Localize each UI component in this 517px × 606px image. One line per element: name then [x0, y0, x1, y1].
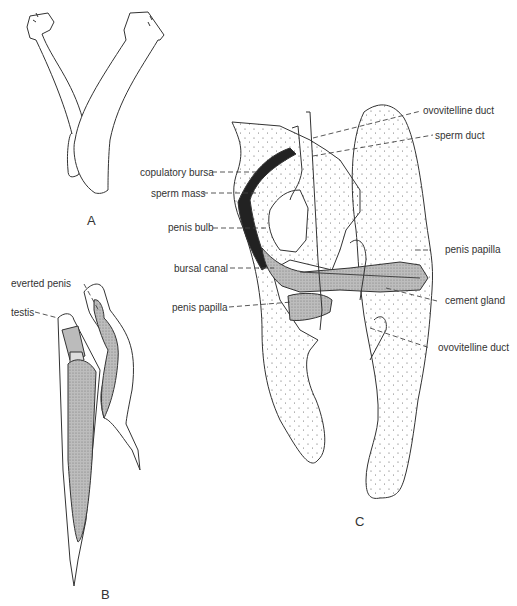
label-copulatory-bursa: copulatory bursa	[140, 167, 214, 178]
panel-label-c: C	[355, 514, 364, 529]
label-bursal-canal: bursal canal	[174, 263, 228, 274]
panel-label-a: A	[87, 213, 96, 228]
panel-label-b: B	[101, 587, 110, 602]
label-ovovitelline-duct-bottom: ovovitelline duct	[438, 342, 509, 353]
label-sperm-duct: sperm duct	[435, 130, 484, 141]
panel-b-drawing	[58, 284, 140, 586]
label-cement-gland: cement gland	[445, 295, 505, 306]
label-penis-papilla-right: penis papilla	[445, 244, 501, 255]
label-everted-penis: everted penis	[11, 278, 71, 289]
label-penis-papilla-left: penis papilla	[172, 302, 228, 313]
label-ovovitelline-duct-top: ovovitelline duct	[423, 105, 494, 116]
label-testis: testis	[11, 307, 34, 318]
figure-drawing	[0, 0, 517, 606]
label-penis-bulb: penis bulb	[168, 222, 214, 233]
panel-c-drawing	[232, 105, 433, 499]
label-sperm-mass: sperm mass	[151, 188, 205, 199]
